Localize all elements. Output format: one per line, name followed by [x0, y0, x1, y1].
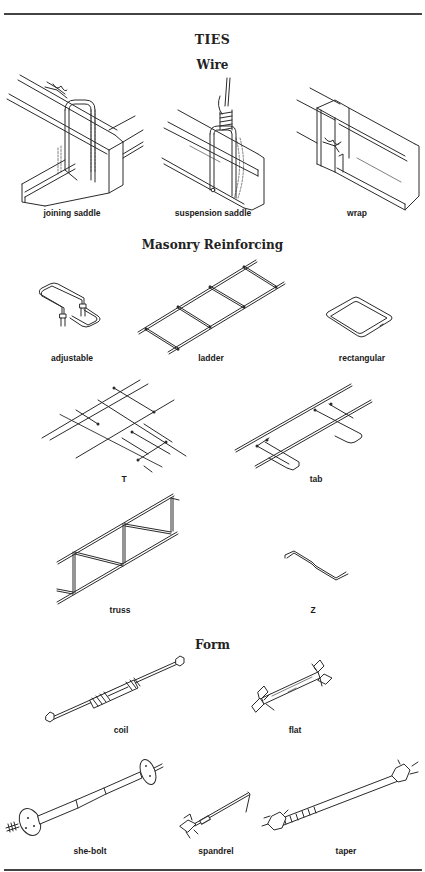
item-label-joining-saddle: joining saddle: [43, 208, 100, 218]
tab-tie-illustration: [233, 384, 375, 470]
t-tie-illustration: [42, 380, 192, 470]
wrap-tie-illustration: [295, 86, 425, 201]
item-label-truss: truss: [110, 605, 131, 615]
truss-tie-illustration: [55, 494, 180, 604]
ladder-tie-illustration: [136, 258, 286, 354]
section-heading-form: Form: [0, 638, 425, 652]
item-label-taper: taper: [336, 846, 357, 856]
item-label-t: T: [121, 474, 126, 484]
item-label-coil: coil: [114, 725, 129, 735]
adjustable-tie-illustration: [36, 282, 106, 332]
item-label-adjustable: adjustable: [51, 353, 93, 363]
item-label-z: Z: [310, 605, 315, 615]
section-heading-wire: Wire: [0, 58, 425, 72]
suspension-saddle-illustration: [160, 78, 265, 203]
spandrel-tie-illustration: [174, 790, 254, 838]
item-label-ladder: ladder: [198, 353, 224, 363]
coil-tie-illustration: [44, 656, 186, 724]
she-bolt-illustration: [4, 756, 164, 840]
joining-saddle-illustration: [5, 72, 145, 202]
item-label-suspension-saddle: suspension saddle: [175, 208, 252, 218]
item-label-flat: flat: [289, 725, 302, 735]
taper-tie-illustration: [258, 758, 420, 838]
flat-tie-illustration: [248, 658, 334, 714]
page-title: TIES: [0, 32, 425, 47]
item-label-spandrel: spandrel: [198, 846, 233, 856]
section-heading-masonry-reinforcing: Masonry Reinforcing: [0, 238, 425, 252]
item-label-tab: tab: [310, 474, 323, 484]
bottom-rule: [4, 869, 422, 871]
top-rule: [4, 13, 422, 15]
z-tie-illustration: [282, 550, 352, 584]
item-label-wrap: wrap: [347, 208, 367, 218]
rectangular-tie-illustration: [325, 296, 395, 340]
item-label-rectangular: rectangular: [339, 353, 385, 363]
item-label-she-bolt: she-bolt: [73, 846, 106, 856]
